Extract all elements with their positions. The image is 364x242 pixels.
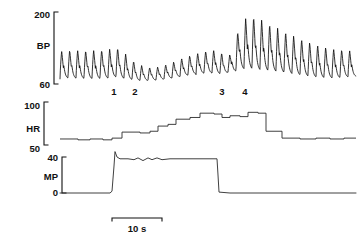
time-scale-bar: 10 s: [112, 218, 162, 234]
hr-axis-min-label: 50: [29, 143, 40, 154]
event-marker-3: 3: [219, 86, 224, 97]
hr-axis-max-label: 100: [24, 100, 40, 111]
scale-bar-line: [112, 218, 162, 222]
mp-trace: [60, 152, 356, 193]
mp-channel-label: MP: [44, 171, 59, 182]
hr-axis-bracket: [44, 102, 49, 145]
bp-axis-max-label: 200: [34, 9, 50, 20]
bp-waveform-trace: [60, 19, 356, 81]
mp-axis-max-label: 40: [47, 152, 58, 163]
bp-axis-min-label: 60: [39, 79, 50, 90]
scale-bar-label: 10 s: [128, 223, 147, 234]
bp-axis-bracket: [54, 12, 59, 84]
event-marker-2: 2: [132, 86, 137, 97]
hr-panel: 100 50 HR: [24, 100, 356, 154]
event-marker-1: 1: [111, 86, 117, 97]
mp-axis-min-label: 0: [53, 187, 58, 198]
physiological-recording-figure: 200 60 BP 1 2 3 4 100 50 HR 40 0 MP: [0, 0, 364, 242]
event-marker-4: 4: [242, 86, 248, 97]
mp-axis-bracket: [62, 157, 67, 193]
hr-step-trace: [60, 112, 356, 140]
event-marker-group: 1 2 3 4: [111, 86, 248, 97]
bp-channel-label: BP: [37, 40, 51, 51]
hr-channel-label: HR: [26, 123, 40, 134]
bp-panel: 200 60 BP: [34, 9, 356, 90]
chart-canvas: 200 60 BP 1 2 3 4 100 50 HR 40 0 MP: [0, 0, 364, 242]
mp-panel: 40 0 MP: [44, 152, 356, 198]
